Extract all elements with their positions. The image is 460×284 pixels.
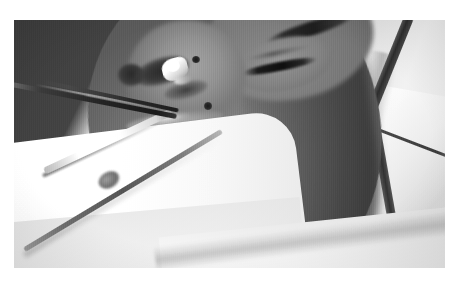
clinical-photograph <box>14 20 445 268</box>
page-root <box>0 0 460 284</box>
soft-focus-overlay <box>14 20 445 268</box>
